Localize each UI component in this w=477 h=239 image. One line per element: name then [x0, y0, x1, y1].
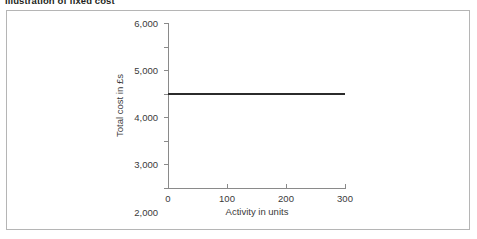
x-axis-line [168, 188, 346, 189]
y-axis-tick: 2,000 [164, 117, 169, 118]
y-axis-tick: 6,000 [164, 23, 169, 24]
y-axis-title-label: Total cost in £s [114, 74, 125, 137]
figure-title: Illustration of fixed cost [5, 0, 115, 6]
y-axis-tick-label: 3,000 [134, 159, 158, 170]
y-axis-tick: 1,500 [164, 141, 169, 142]
x-axis-tick [345, 184, 346, 189]
x-axis-tick-label: 200 [278, 193, 294, 204]
y-axis-tick-label: 5,000 [134, 65, 158, 76]
y-axis-tick: 4,000 [164, 70, 169, 71]
x-axis-tick [227, 184, 228, 189]
y-axis-tick-label: 4,000 [134, 112, 158, 123]
fixed-cost-line [168, 93, 345, 95]
x-axis-tick-label: 100 [219, 193, 235, 204]
y-axis-title: Total cost in £s [112, 23, 126, 188]
plot-area: 01,0001,5002,0003,0004,0005,0006,000 010… [168, 23, 345, 188]
y-axis-tick-label: 2,000 [134, 206, 158, 217]
y-axis-tick: 1,000 [164, 164, 169, 165]
x-axis-title: Activity in units [168, 206, 346, 217]
y-axis-tick-label: 6,000 [134, 18, 158, 29]
x-axis-tick-label: 300 [337, 193, 353, 204]
y-axis-tick: 5,000 [164, 47, 169, 48]
x-axis-tick [168, 184, 169, 189]
x-axis-tick [286, 184, 287, 189]
x-axis-tick-label: 0 [165, 193, 170, 204]
